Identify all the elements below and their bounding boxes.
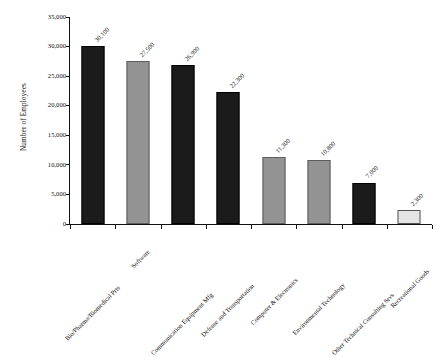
x-axis-category-text: Communication Equipment Mfg bbox=[150, 292, 215, 357]
bar[interactable] bbox=[217, 92, 240, 224]
x-axis-category-text: Environmental Technology bbox=[292, 282, 347, 337]
bar[interactable] bbox=[262, 157, 285, 224]
bar-group: 22,300 bbox=[206, 17, 251, 224]
y-axis-tick-label: 30,000 bbox=[32, 43, 66, 50]
bar-value-label: 26,900 bbox=[184, 45, 201, 62]
bar-group: 11,300 bbox=[251, 17, 296, 224]
bar-group: 7,000 bbox=[342, 17, 387, 224]
bar[interactable] bbox=[172, 65, 195, 224]
x-axis-category-text: Bio/Pharma/Biomedical Prts bbox=[64, 285, 121, 342]
x-axis-tick-mark bbox=[206, 225, 207, 229]
bar[interactable] bbox=[307, 160, 330, 224]
bar[interactable] bbox=[353, 183, 376, 224]
x-axis-tick-mark bbox=[251, 225, 252, 229]
bar-value-label: 11,300 bbox=[274, 137, 291, 154]
bar-value-label: 22,300 bbox=[229, 72, 246, 89]
plot-area: 30,10027,50026,90022,30011,30010,8007,00… bbox=[70, 17, 432, 224]
bar[interactable] bbox=[398, 210, 421, 224]
x-axis-tick-mark bbox=[115, 225, 116, 229]
bar-group: 10,800 bbox=[296, 17, 341, 224]
bar-group: 27,500 bbox=[115, 17, 160, 224]
x-axis-category-label: Bio/Pharma/Biomedical Prts bbox=[116, 232, 173, 289]
y-axis-tick-label: 25,000 bbox=[32, 73, 66, 80]
x-axis-category-label: Environmental Technology bbox=[342, 232, 397, 287]
bar[interactable] bbox=[126, 61, 149, 224]
x-axis-tick-mark bbox=[161, 225, 162, 229]
y-axis-tick-label: 35,000 bbox=[32, 14, 66, 21]
y-axis-tick-label: 5,000 bbox=[32, 191, 66, 198]
bar-value-label: 30,100 bbox=[93, 26, 110, 43]
x-axis-tick-mark bbox=[387, 225, 388, 229]
y-axis-title: Number of Employees bbox=[20, 52, 28, 182]
x-axis-category-text: Other Technical Consulting Srvs bbox=[331, 292, 396, 357]
bar[interactable] bbox=[81, 46, 104, 224]
bar-value-label: 7,000 bbox=[365, 165, 380, 180]
bar-value-label: 2,300 bbox=[410, 193, 425, 208]
bar-group: 2,300 bbox=[387, 17, 432, 224]
x-axis-tick-mark bbox=[432, 225, 433, 229]
y-axis-tick-label: 0 bbox=[32, 221, 66, 228]
bar-value-label: 27,500 bbox=[139, 41, 156, 58]
y-axis-tick-label: 10,000 bbox=[32, 162, 66, 169]
y-axis-tick-label: 20,000 bbox=[32, 102, 66, 109]
bar-value-label: 10,800 bbox=[320, 140, 337, 157]
x-axis-category-label: Communication Equipment Mfg bbox=[210, 232, 275, 297]
bar-group: 30,100 bbox=[70, 17, 115, 224]
y-axis-tick-label: 15,000 bbox=[32, 132, 66, 139]
x-axis-tick-mark bbox=[70, 225, 71, 229]
x-axis-tick-mark bbox=[296, 225, 297, 229]
bar-group: 26,900 bbox=[161, 17, 206, 224]
x-axis-tick-mark bbox=[342, 225, 343, 229]
